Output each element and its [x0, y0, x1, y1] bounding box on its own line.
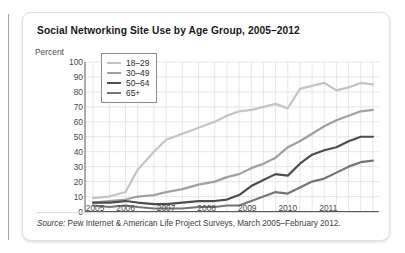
source-label: Source: [37, 219, 65, 228]
legend-label: 30–49 [126, 69, 149, 77]
legend-line-swatch [107, 72, 121, 74]
legend-line-swatch [107, 82, 121, 84]
source-note: Source: Pew Internet & American Life Pro… [37, 219, 341, 228]
legend-line-swatch [107, 62, 121, 64]
legend-label: 50–64 [126, 79, 149, 87]
chart-legend: 18–2930–4950–6465+ [101, 53, 157, 103]
source-divider [36, 212, 378, 213]
source-text: Pew Internet & American Life Project Sur… [65, 219, 340, 228]
legend-label: 18–29 [126, 59, 149, 67]
legend-line-swatch [107, 92, 121, 94]
legend-item: 18–29 [107, 58, 149, 68]
x-axis-ticks: 2005200620072008200920102011 [23, 203, 391, 219]
legend-label: 65+ [126, 89, 140, 97]
chart-plot-area: Percent 0102030405060708090100 200520062… [23, 13, 391, 242]
chart-card: Social Networking Site Use by Age Group,… [22, 12, 390, 241]
legend-item: 30–49 [107, 68, 149, 78]
legend-item: 50–64 [107, 78, 149, 88]
left-edge-rule [8, 14, 9, 240]
legend-item: 65+ [107, 88, 149, 98]
